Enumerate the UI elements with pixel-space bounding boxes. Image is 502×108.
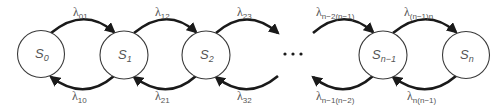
backward-arc-2-1 bbox=[134, 76, 196, 89]
forward-arc-1-2 bbox=[134, 19, 196, 33]
forward-arc-ellipsis-n1 bbox=[313, 19, 373, 33]
state-sn-minus-1: Sn−1 bbox=[359, 31, 407, 79]
forward-arc-n1-n bbox=[393, 19, 456, 33]
backward-arc-n1-ellipsis bbox=[313, 76, 373, 89]
state-s2: S2 bbox=[182, 31, 230, 79]
forward-arc-2-ellipsis bbox=[216, 20, 278, 34]
rate-label-forward-23: λ23 bbox=[237, 5, 252, 21]
state-s1: S1 bbox=[100, 31, 148, 79]
rate-label-backward-10: λ10 bbox=[72, 89, 87, 105]
rate-label-forward-n1-n: λ(n−1)n bbox=[404, 5, 433, 21]
rate-label-backward-21: λ21 bbox=[155, 89, 170, 105]
rate-label-backward-32: λ32 bbox=[237, 89, 252, 105]
ellipsis bbox=[283, 52, 302, 55]
rate-label-backward-n1-n2: λn−1(n−2) bbox=[316, 89, 355, 105]
backward-arc-ellipsis-2 bbox=[216, 76, 278, 89]
rate-label-forward-n2-n1: λn−2(n−1) bbox=[316, 5, 355, 21]
forward-arc-0-1 bbox=[51, 19, 114, 33]
state-transition-diagram: S0 S1 S2 Sn−1 Sn λ01 λ12 λ23 λn−2(n−1) λ… bbox=[0, 0, 502, 108]
state-sn: Sn bbox=[443, 32, 490, 79]
backward-arc-n-n1 bbox=[393, 76, 456, 89]
rate-label-forward-01: λ01 bbox=[73, 5, 88, 21]
state-s0: S0 bbox=[18, 31, 65, 78]
rate-label-forward-12: λ12 bbox=[155, 5, 170, 21]
backward-arc-1-0 bbox=[51, 76, 114, 89]
rate-label-backward-n-n1: λn(n−1) bbox=[407, 89, 437, 105]
